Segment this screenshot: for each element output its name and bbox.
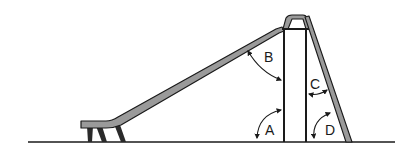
angle-label-b: B bbox=[264, 49, 273, 65]
slide-chute bbox=[81, 27, 284, 128]
angle-label-a: A bbox=[265, 122, 275, 138]
angle-label-d: D bbox=[325, 122, 335, 138]
slide-diagram: A B C D bbox=[0, 0, 416, 153]
angle-label-c: C bbox=[310, 76, 320, 92]
